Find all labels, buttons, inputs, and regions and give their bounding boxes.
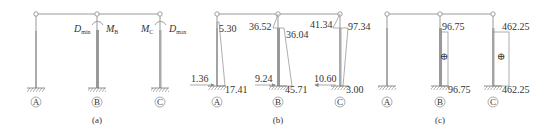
svg-text:B: B	[94, 97, 100, 107]
plus-sign-icon: ⊕	[440, 51, 448, 62]
value-a-top: 5.30	[219, 23, 237, 34]
value-a-bottom: 17.41	[225, 84, 248, 95]
column-a-c-thick	[159, 30, 162, 88]
fixed-support-icon	[484, 86, 502, 90]
svg-text:A: A	[384, 97, 391, 107]
label-m-b: MB	[105, 23, 118, 35]
hinge-icon	[438, 12, 442, 16]
caption-a: (a)	[92, 115, 102, 125]
fixed-support-icon	[27, 88, 45, 92]
fixed-support-icon	[378, 86, 396, 90]
value-b-bottom: 96.75	[448, 84, 471, 95]
column-a-b-thick	[96, 30, 99, 88]
panel-c: ⊕ 96.75 96.75 ⊕ 462.25 462.25 A B C (c)	[378, 12, 530, 125]
hinge-icon	[158, 12, 162, 16]
hinge-icon	[385, 12, 389, 16]
hinge-icon	[95, 12, 99, 16]
value-b-shear: 9.24	[255, 73, 273, 84]
value-b-top: 96.75	[442, 21, 465, 32]
hinge-icon	[491, 12, 495, 16]
svg-text:B: B	[437, 97, 443, 107]
value-c-bottom: 462.25	[502, 84, 530, 95]
value-b-top-left: 36.52	[249, 21, 272, 32]
hinge-icon	[34, 12, 38, 16]
panel-b: 5.30 17.41 1.36 36.52 36.04 45.71 9.24 4…	[190, 12, 371, 125]
value-c-shear: 10.60	[314, 73, 337, 84]
moment-diagram-b	[273, 14, 292, 86]
svg-text:B: B	[275, 97, 281, 107]
svg-text:A: A	[33, 97, 40, 107]
value-c-top-right: 97.34	[348, 21, 371, 32]
value-c-top-left: 41.34	[310, 19, 333, 30]
caption-b: (b)	[273, 115, 284, 125]
svg-text:C: C	[490, 97, 496, 107]
plus-sign-icon: ⊕	[497, 51, 505, 62]
fixed-support-icon	[208, 86, 226, 90]
svg-text:C: C	[157, 97, 163, 107]
fixed-support-icon	[151, 88, 169, 92]
label-d-min: Dmin	[73, 23, 91, 35]
value-c-bottom: 3.00	[346, 84, 364, 95]
value-a-shear: 1.36	[191, 73, 209, 84]
column-a-a-thick	[35, 31, 37, 88]
label-d-max: Dmax	[168, 23, 187, 35]
svg-text:C: C	[337, 97, 343, 107]
panel-a: Dmin MB MC Dmax A B C (a)	[27, 12, 187, 125]
fixed-support-icon	[88, 88, 106, 92]
label-m-c: MC	[140, 23, 153, 35]
fixed-support-icon	[431, 86, 449, 90]
value-b-top-right: 36.04	[286, 29, 309, 40]
caption-c: (c)	[435, 115, 445, 125]
value-b-bottom: 45.71	[285, 84, 308, 95]
hinge-icon	[215, 12, 219, 16]
value-c-top: 462.25	[502, 21, 530, 32]
svg-text:A: A	[214, 97, 221, 107]
frame-diagrams: Dmin MB MC Dmax A B C (a) 5.30 17.41 1.3…	[0, 0, 549, 133]
